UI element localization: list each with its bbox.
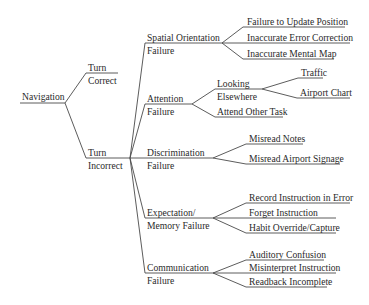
leaf-readback-incomplete: Readback Incomplete — [249, 276, 332, 287]
node-turn-correct-line1: Turn — [88, 62, 106, 73]
node-attention-line1: Attention — [147, 93, 183, 104]
node-expectation-line1: Expectation/ — [147, 207, 195, 218]
node-turn-incorrect-line1: Turn — [88, 147, 106, 158]
leaf-airport-chart: Airport Chart — [300, 87, 352, 98]
node-looking-elsewhere-line1: Looking — [217, 78, 250, 89]
leaf-auditory-confusion: Auditory Confusion — [249, 249, 326, 260]
node-looking-elsewhere-line2: Elsewhere — [217, 91, 257, 102]
node-communication-line2: Failure — [147, 275, 174, 286]
leaf-misread-airport-signage: Misread Airport Signage — [249, 153, 344, 164]
node-spatial-orientation-line2: Failure — [147, 45, 174, 56]
leaf-failure-to-update-position: Failure to Update Position — [247, 16, 348, 27]
node-attention-line2: Failure — [147, 106, 174, 117]
node-turn-correct-line2: Correct — [88, 75, 117, 86]
node-discrimination-line2: Failure — [147, 160, 174, 171]
node-navigation: Navigation — [22, 91, 65, 102]
leaf-misread-notes: Misread Notes — [249, 133, 305, 144]
leaf-misinterpret-instruction: Misinterpret Instruction — [249, 262, 340, 273]
leaf-attend-other-task: Attend Other Task — [217, 106, 288, 117]
leaf-inaccurate-mental-map: Inaccurate Mental Map — [247, 48, 337, 59]
leaf-traffic: Traffic — [301, 67, 327, 78]
navigation-error-tree-diagram: Navigation Turn Correct Turn Incorrect S… — [0, 0, 369, 305]
node-communication-line1: Communication — [147, 262, 209, 273]
node-discrimination-line1: Discrimination — [147, 147, 205, 158]
node-turn-incorrect-line2: Incorrect — [88, 160, 123, 171]
leaf-habit-override-capture: Habit Override/Capture — [249, 222, 340, 233]
leaf-record-instruction-in-error: Record Instruction in Error — [249, 192, 353, 203]
leaf-inaccurate-error-correction: Inaccurate Error Correction — [247, 32, 353, 43]
node-expectation-line2: Memory Failure — [147, 220, 210, 231]
leaf-forget-instruction: Forget Instruction — [249, 207, 318, 218]
node-spatial-orientation-line1: Spatial Orientation — [147, 32, 220, 43]
